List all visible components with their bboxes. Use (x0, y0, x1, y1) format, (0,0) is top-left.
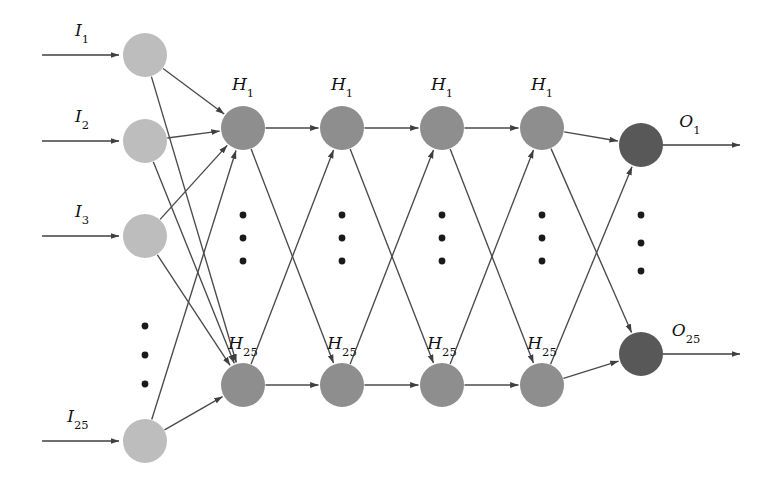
hidden-ellipsis-dot-col1-2 (240, 235, 247, 242)
hidden-ellipsis-dot-col2-1 (339, 212, 346, 219)
nodes-layer (123, 33, 663, 463)
edge-I3-to-H25 (157, 255, 230, 366)
hidden-ellipsis-dot-col4-3 (539, 258, 546, 265)
output-node-O25[interactable] (619, 332, 663, 376)
input-label-I25: I25 (66, 406, 88, 432)
output-label-O25: O25 (672, 320, 701, 346)
hidden-label-top-col2: H1 (330, 74, 353, 100)
edge-I1-to-H1 (163, 68, 224, 114)
hidden-ellipsis-dot-col3-3 (439, 258, 446, 265)
hidden-node-top-col3[interactable] (420, 106, 464, 150)
hidden-ellipsis-dot-col1-3 (240, 258, 247, 265)
hidden-label-top-col4: H1 (530, 74, 553, 100)
hidden-node-top-col4[interactable] (520, 106, 564, 150)
hidden-label-top-col3: H1 (430, 74, 453, 100)
input-ellipsis-dot-1 (142, 323, 149, 330)
input-ellipsis-dot-3 (142, 381, 149, 388)
hidden-node-bottom-col2[interactable] (320, 363, 364, 407)
hidden-ellipsis-dot-col4-2 (539, 235, 546, 242)
hidden-label-top-col1: H1 (231, 74, 254, 100)
input-label-I3: I3 (74, 201, 89, 227)
hidden-ellipsis-dot-col3-2 (439, 235, 446, 242)
output-node-O1[interactable] (619, 123, 663, 167)
hidden-node-bottom-col4[interactable] (520, 363, 564, 407)
input-label-I1: I1 (74, 20, 89, 46)
edge-Hbottom-to-O25 (563, 361, 618, 378)
edge-Htop-to-O1 (564, 132, 618, 141)
hidden-ellipsis-dot-col4-1 (539, 212, 546, 219)
input-node-I1[interactable] (123, 33, 167, 77)
hidden-ellipsis-dot-col1-1 (240, 212, 247, 219)
neural-network-diagram: I1I2I3I25H1H25H1H25H1H25H1H25O1O25 (0, 0, 775, 501)
output-label-O1: O1 (679, 111, 700, 137)
hidden-ellipsis-dot-col2-3 (339, 258, 346, 265)
network-canvas: I1I2I3I25H1H25H1H25H1H25H1H25O1O25 (0, 0, 775, 501)
input-node-I2[interactable] (123, 119, 167, 163)
edge-I2-to-H25 (153, 162, 234, 363)
output-ellipsis-dot-1 (638, 212, 645, 219)
output-ellipsis-dot-2 (638, 240, 645, 247)
edge-I3-to-H1 (160, 145, 227, 219)
hidden-ellipsis-dot-col2-2 (339, 235, 346, 242)
edge-I25-to-H25 (165, 397, 223, 430)
hidden-node-top-col1[interactable] (221, 106, 265, 150)
input-node-I25[interactable] (123, 419, 167, 463)
edge-I2-to-H1 (167, 131, 219, 138)
hidden-node-bottom-col1[interactable] (221, 363, 265, 407)
input-label-I2: I2 (74, 106, 89, 132)
input-node-I3[interactable] (123, 214, 167, 258)
hidden-ellipsis-dot-col3-1 (439, 212, 446, 219)
hidden-node-top-col2[interactable] (320, 106, 364, 150)
input-ellipsis-dot-2 (142, 352, 149, 359)
output-ellipsis-dot-3 (638, 268, 645, 275)
hidden-node-bottom-col3[interactable] (420, 363, 464, 407)
edge-Hbottom-to-O1 (551, 167, 632, 364)
edge-Htop-to-O25 (551, 149, 632, 333)
